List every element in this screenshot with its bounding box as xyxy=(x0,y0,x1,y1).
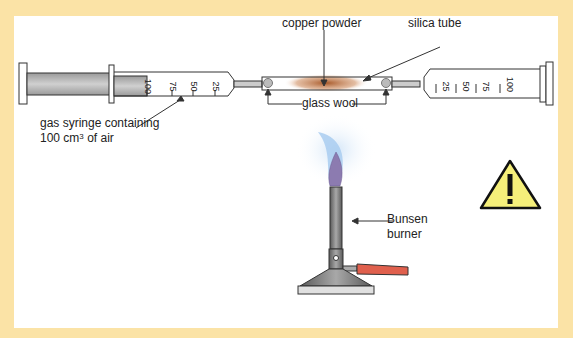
label-pointers xyxy=(136,30,440,224)
right-scale-25: 25 xyxy=(438,81,453,91)
silica-tube xyxy=(262,74,392,92)
glass-wool-right xyxy=(382,79,391,88)
right-scale-100: 100 xyxy=(502,77,517,92)
glass-wool-label: glass wool xyxy=(302,96,358,111)
burner-barrel xyxy=(330,187,342,249)
bunsen-flame xyxy=(296,114,376,186)
bunsen-burner-label: Bunsen burner xyxy=(387,212,428,242)
left-scale-75: 75 xyxy=(165,81,180,91)
burner-base-plate xyxy=(298,286,374,294)
right-scale-75: 75 xyxy=(478,81,493,91)
left-plunger-handle xyxy=(19,63,27,104)
warning-icon xyxy=(481,161,540,208)
right-plunger-handle xyxy=(546,62,553,105)
glass-wool-left xyxy=(264,79,273,88)
silica-tube-label: silica tube xyxy=(408,16,461,31)
left-plunger-rod xyxy=(27,73,113,95)
left-connector xyxy=(234,81,262,87)
gas-syringe-label: gas syringe containing 100 cm3 of air xyxy=(40,116,159,146)
right-scale-50: 50 xyxy=(458,81,473,91)
right-connector xyxy=(392,81,420,87)
copper-powder-label: copper powder xyxy=(282,16,361,31)
left-scale-25: 25 xyxy=(208,81,223,91)
left-scale-100: 100 xyxy=(140,79,155,94)
left-scale-50: 50 xyxy=(186,81,201,91)
left-barrel-flange xyxy=(109,65,114,103)
gas-tube xyxy=(357,264,408,275)
apparatus-drawing xyxy=(0,0,573,338)
